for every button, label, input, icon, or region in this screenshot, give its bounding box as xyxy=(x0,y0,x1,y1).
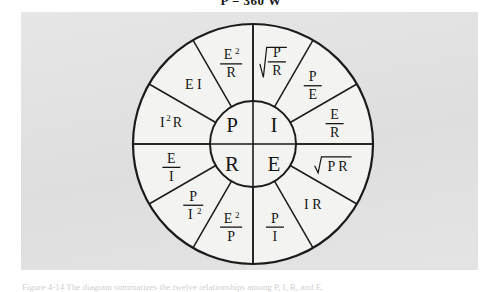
figure-caption: Figure 4-14 The diagram summarizes the t… xyxy=(22,282,482,292)
label-text: 2 xyxy=(235,46,240,56)
label-text: I xyxy=(188,207,193,222)
hub-label-voltage: E xyxy=(268,152,281,176)
label-text: P xyxy=(309,69,317,84)
label-text: P xyxy=(271,211,279,226)
hub-label-resistance: R xyxy=(225,152,239,176)
label-text: 2 xyxy=(166,113,171,123)
label-text: E xyxy=(330,107,339,122)
label-text: I xyxy=(160,115,165,130)
label-text: P R xyxy=(328,159,349,174)
label-text: R xyxy=(330,125,340,140)
label-text: I R xyxy=(304,197,322,212)
label-text: I xyxy=(273,229,278,244)
label-text: E xyxy=(224,211,233,226)
label-text: I xyxy=(169,169,174,184)
label-text: E I xyxy=(185,77,202,92)
label-text: R xyxy=(272,63,282,78)
label-text: 2 xyxy=(197,206,202,216)
sector-i-r: I R xyxy=(304,197,322,212)
hub-label-power: P xyxy=(226,113,238,137)
label-text: E xyxy=(308,87,317,102)
sector-e-i: E I xyxy=(185,77,202,92)
label-text: 2 xyxy=(235,210,240,220)
label-text: P xyxy=(227,229,235,244)
label-text: E xyxy=(167,151,176,166)
label-text: R xyxy=(173,115,183,130)
label-text: P xyxy=(189,189,197,204)
label-text: R xyxy=(226,65,236,80)
label-text: E xyxy=(224,47,233,62)
hub-label-current: I xyxy=(271,113,278,137)
